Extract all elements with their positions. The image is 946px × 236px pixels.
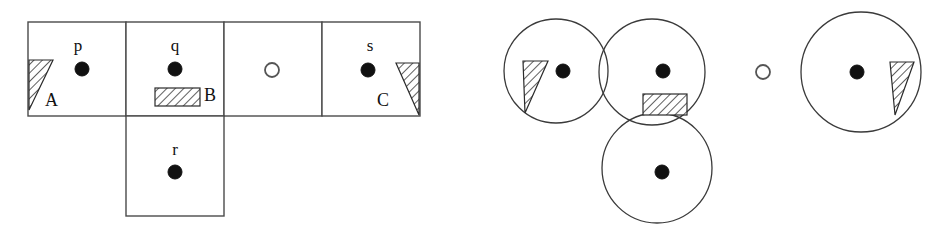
- agent-dot-s[interactable]: [361, 63, 375, 77]
- obstacle-b-shape: [155, 88, 200, 106]
- agent-dot-r-right[interactable]: [655, 165, 669, 179]
- agent-label-p: p: [74, 36, 83, 55]
- agent-dot-p[interactable]: [75, 62, 89, 76]
- goal-marker-left[interactable]: [265, 63, 279, 77]
- agent-dot-q[interactable]: [168, 62, 182, 76]
- obstacle-c-label: C: [377, 90, 389, 110]
- obstacle-b-label: B: [204, 85, 216, 105]
- obstacle-a-shape-right: [523, 61, 548, 113]
- figure-canvas: A B C p q s r: [0, 0, 946, 236]
- sensor-range-diagram: [504, 12, 921, 223]
- agent-dot-p-right[interactable]: [556, 64, 570, 78]
- agent-label-r: r: [172, 140, 178, 159]
- agent-label-q: q: [171, 36, 180, 55]
- agent-dot-q-right[interactable]: [656, 64, 670, 78]
- agent-label-s: s: [367, 36, 374, 55]
- figure-root: A B C p q s r: [0, 0, 946, 236]
- agent-dot-r[interactable]: [168, 165, 182, 179]
- obstacle-b-shape-right: [643, 94, 687, 115]
- grid-cells-diagram: A B C p q s r: [28, 22, 420, 216]
- goal-marker-right[interactable]: [756, 65, 770, 79]
- obstacle-a-label: A: [45, 90, 58, 110]
- agent-dot-s-right[interactable]: [850, 65, 864, 79]
